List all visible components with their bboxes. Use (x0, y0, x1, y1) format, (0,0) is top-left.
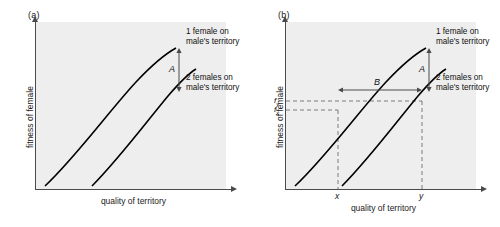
panel-a-label-two-females-line2: male's territory (186, 83, 239, 92)
panel-a-label-one-female: 1 female on male's territory (186, 27, 239, 47)
panel-b-label-two-females-line1: 2 females on (436, 73, 483, 82)
panel-b-label-one-female-line1: 1 female on (436, 27, 479, 36)
panel-b-curve-two-females (342, 69, 446, 186)
panel-b-xtick-y: y (419, 191, 423, 201)
panel-a-label-two-females-line1: 2 females on (186, 73, 233, 82)
panel-a-label-one-female-line2: male's territory (186, 37, 239, 46)
panel-b-label-one-female-line2: male's territory (436, 37, 489, 46)
panel-b: (b) (250, 0, 500, 227)
panel-b-annotation-b: B (374, 77, 380, 87)
polygyny-threshold-figure: (a) 1 female on male's territory 2 femal… (0, 0, 500, 227)
panel-a-x-axis-label: quality of territory (76, 196, 191, 206)
panel-b-construction-lines (286, 101, 422, 189)
panel-a-label-one-female-line1: 1 female on (186, 27, 229, 36)
panel-a: (a) 1 female on male's territory 2 femal… (0, 0, 250, 227)
panel-b-label-two-females-line2: male's territory (436, 83, 489, 92)
panel-a-y-axis-label: fitness of female (25, 86, 35, 148)
panel-b-annotation-a: A (419, 64, 425, 74)
panel-b-y-axis-label: fitness of female (275, 86, 285, 148)
panel-b-label-one-female: 1 female on male's territory (436, 27, 489, 47)
panel-a-curve-two-females (92, 69, 196, 186)
panel-a-label-two-females: 2 females on male's territory (186, 73, 239, 93)
panel-a-annotation-a: A (169, 64, 175, 74)
panel-b-x-axis-label: quality of territory (326, 203, 441, 213)
panel-b-xtick-x: x (335, 191, 339, 201)
panel-b-label-two-females: 2 females on male's territory (436, 73, 489, 93)
